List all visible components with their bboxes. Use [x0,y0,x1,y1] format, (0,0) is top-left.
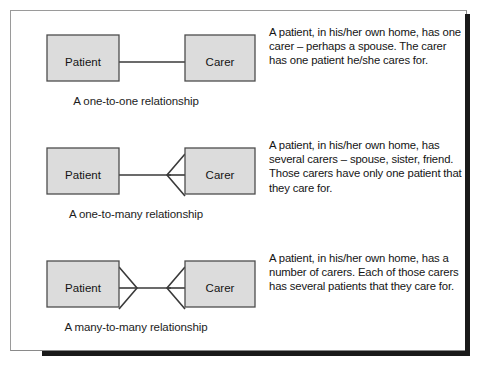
er-diagram-one-to-many: Patient Carer A one-to-many relationship [11,128,261,241]
relationship-row: Patient Carer A one-to-one relationship … [11,15,468,128]
er-diagram-svg: Patient Carer [27,144,261,206]
diagram-caption: A one-to-one relationship [11,95,261,107]
entity-label-patient: Patient [65,169,102,181]
entity-label-carer: Carer [206,169,235,181]
relationship-row: Patient Carer A one-to-many relationship… [11,128,468,241]
figure-frame: Patient Carer A one-to-one relationship … [10,10,467,351]
frame-shadow-right-edge [465,14,470,356]
relationship-description: A patient, in his/her own home, has a nu… [269,251,465,294]
diagram-caption: A one-to-many relationship [11,208,261,220]
relationship-description: A patient, in his/her own home, has seve… [269,138,465,195]
er-diagram-many-to-many: Patient Carer A many-to-many relationshi… [11,241,261,354]
relationship-description: A patient, in his/her own home, has one … [269,25,465,68]
entity-label-patient: Patient [65,56,102,68]
relationship-row: Patient Carer A many-to-many relationshi… [11,241,468,354]
entity-label-carer: Carer [206,282,235,294]
er-diagram-svg: Patient Carer [27,257,261,319]
entity-label-carer: Carer [206,56,235,68]
er-diagram-one-to-one: Patient Carer A one-to-one relationship [11,15,261,128]
diagram-caption: A many-to-many relationship [11,321,261,333]
er-diagram-svg: Patient Carer [27,31,261,93]
frame-shadow-bottom-edge [42,351,470,356]
entity-label-patient: Patient [65,282,102,294]
